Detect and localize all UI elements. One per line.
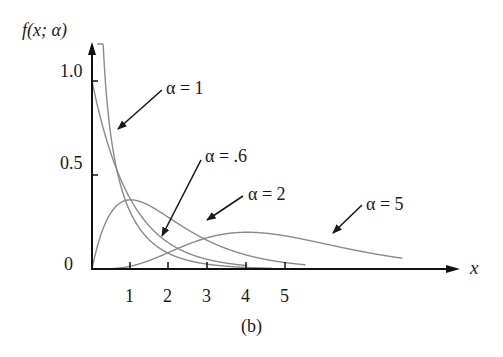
annotation-alpha-2: α = 2 [248,184,286,204]
curves [92,44,402,269]
arrow-alpha-1-icon [118,90,162,129]
arrow-alpha-5-icon [333,205,362,233]
curve-alpha-5 [92,232,402,269]
figure-caption: (b) [241,316,262,337]
y-tick-label-1.0: 1.0 [60,61,83,81]
gamma-density-chart: f(x; α) 1.0 0.5 0 1 2 3 4 5 x (b) α = 1 … [0,0,503,357]
annotation-alpha-1: α = 1 [166,78,204,98]
annotation-alpha-0.6: α = .6 [205,146,247,166]
x-tick-label-3: 3 [202,286,211,306]
x-tick-label-4: 4 [241,286,250,306]
x-axis-arrow-icon [446,265,460,273]
annotation-alpha-5: α = 5 [366,194,404,214]
x-tick-label-2: 2 [163,286,172,306]
x-tick-label-1: 1 [125,286,134,306]
arrow-alpha-0.6-icon [162,160,201,236]
y-axis-arrow-icon [88,42,96,55]
arrow-alpha-2-icon [207,196,243,220]
x-tick-label-5: 5 [280,286,289,306]
y-tick-label-0.5: 0.5 [60,153,83,173]
curve-alpha-1 [92,81,247,266]
x-axis-label: x [469,257,479,278]
y-tick-label-0: 0 [64,254,73,274]
y-axis-label: f(x; α) [22,20,67,41]
